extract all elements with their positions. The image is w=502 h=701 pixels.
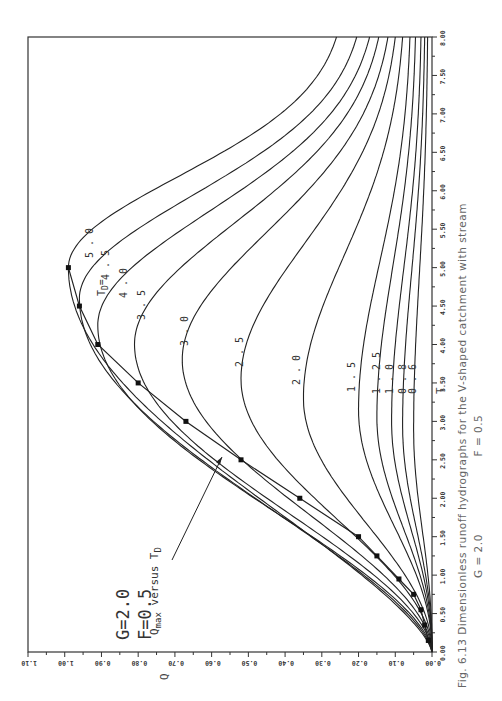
qmax-marker (396, 576, 401, 581)
svg-text:6.00: 6.00 (439, 184, 447, 200)
curve-label: 3 . 5 (136, 290, 147, 320)
caption-line-1: Fig. 6.13 Dimensionless runoff hydrograp… (456, 203, 468, 688)
svg-text:8.00: 8.00 (439, 30, 447, 46)
curve-label: 4 . 5 (100, 250, 111, 280)
curve-label: 0 . 6 (407, 364, 418, 394)
td-eq: = (96, 279, 107, 285)
qmax-sub: max (153, 612, 163, 628)
qmax-marker (183, 419, 188, 424)
svg-text:0.20: 0.20 (352, 659, 368, 667)
qmax-marker (426, 638, 431, 643)
svg-text:0.30: 0.30 (315, 659, 331, 667)
svg-text:0.40: 0.40 (278, 659, 294, 667)
qmax-q: Q (148, 628, 161, 635)
svg-text:0.00: 0.00 (425, 659, 441, 667)
hydrograph-curves (68, 37, 432, 652)
svg-text:4.50: 4.50 (439, 299, 447, 315)
qmax-marker (356, 534, 361, 539)
plot-frame (28, 37, 432, 652)
svg-text:0.50: 0.50 (439, 607, 447, 623)
svg-text:1.10: 1.10 (21, 659, 37, 667)
qmax-rest-sub: D (153, 547, 163, 552)
svg-text:0.80: 0.80 (131, 659, 147, 667)
qmax-marker (95, 342, 100, 347)
qmax-marker (374, 553, 379, 558)
curve-label: 2 . 5 (234, 337, 245, 367)
svg-text:7.00: 7.00 (439, 107, 447, 123)
hydrograph-curve (304, 37, 433, 652)
qmax-marker (66, 265, 71, 270)
qmax-label: Qmax versus TD (148, 547, 163, 635)
hydrograph-curve (377, 37, 432, 652)
td-t: T (96, 290, 107, 296)
svg-text:0.50: 0.50 (242, 659, 258, 667)
svg-text:0.60: 0.60 (205, 659, 221, 667)
curve-label: 3 . 0 (179, 316, 190, 346)
svg-text:2.50: 2.50 (439, 453, 447, 469)
qmax-marker (77, 304, 82, 309)
hydrograph-chart: 0.000.501.001.502.002.503.003.504.004.50… (0, 0, 502, 701)
qmax-rest: versus T (148, 553, 161, 613)
svg-text:6.50: 6.50 (439, 146, 447, 162)
curve-label: 4 . 0 (118, 268, 129, 298)
svg-text:7.50: 7.50 (439, 69, 447, 85)
svg-text:5.00: 5.00 (439, 261, 447, 277)
caption-g: G = 2.0 (472, 534, 484, 578)
td-sub: D (101, 285, 110, 290)
hydrograph-curve (68, 37, 432, 652)
curve-label: 5 . 0 (84, 228, 95, 258)
svg-text:0.00: 0.00 (439, 645, 447, 661)
param-g: G=2.0 (112, 589, 134, 640)
caption-f: F = 0.5 (472, 415, 484, 457)
figure-caption: Fig. 6.13 Dimensionless runoff hydrograp… (456, 203, 484, 688)
curve-label: 1 . 2 5 (371, 352, 382, 394)
qmax-marker (422, 623, 427, 628)
qmax-marker (239, 457, 244, 462)
curve-labels: 5 . 04 . 54 . 03 . 53 . 02 . 52 . 01 . 5… (84, 228, 418, 394)
svg-text:1.50: 1.50 (439, 530, 447, 546)
curve-label: 2 . 0 (291, 355, 302, 385)
t-axis-title: T (434, 387, 447, 394)
svg-text:1.00: 1.00 (58, 659, 74, 667)
svg-text:1.00: 1.00 (439, 568, 447, 584)
qmax-marker (136, 380, 141, 385)
caption-line-2: G = 2.0 F = 0.5 (472, 203, 484, 688)
td-equals-label: TD= (96, 279, 110, 296)
qmax-marker (297, 496, 302, 501)
qmax-marker (418, 607, 423, 612)
svg-text:3.00: 3.00 (439, 415, 447, 431)
svg-text:5.50: 5.50 (439, 222, 447, 238)
q-axis-title: Q (158, 673, 171, 680)
svg-text:4.00: 4.00 (439, 338, 447, 354)
svg-text:0.70: 0.70 (168, 659, 184, 667)
svg-text:0.90: 0.90 (95, 659, 111, 667)
curve-label: 1 . 0 (384, 364, 395, 394)
svg-text:2.00: 2.00 (439, 492, 447, 508)
curve-label: 1 . 5 (346, 362, 357, 392)
svg-text:0.10: 0.10 (389, 659, 405, 667)
qmax-marker (411, 592, 416, 597)
